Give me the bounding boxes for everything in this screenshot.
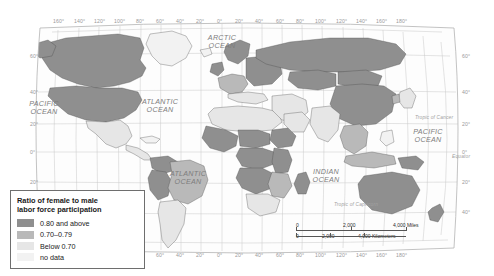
lon-label-bottom-10: 120°: [336, 252, 347, 258]
lon-label-top-4: 80°: [136, 18, 144, 24]
legend-swatch-mid: [17, 231, 34, 239]
lon-label-top-10: 40°: [255, 18, 263, 24]
lon-label-top-0: 160°: [53, 18, 64, 24]
scale-miles-tick-1: [351, 227, 352, 231]
ocean-label-atlantic-north: ATLANTICOCEAN: [136, 98, 184, 115]
lon-label-top-11: 60°: [276, 18, 284, 24]
lon-label-top-17: 180°: [396, 18, 407, 24]
scale-miles-tick-0: [296, 227, 297, 231]
lat-label-right-1: 40°: [462, 89, 470, 95]
lon-label-top-3: 100°: [114, 18, 125, 24]
label-equator: Equator: [452, 154, 470, 159]
lon-label-bottom-6: 40°: [255, 252, 263, 258]
scale-km-tick-0: [296, 233, 297, 237]
lon-label-bottom-3: 20°: [196, 252, 204, 258]
legend-item-mid[interactable]: 0.70–0.79: [17, 230, 138, 239]
lon-label-top-5: 60°: [156, 18, 164, 24]
lat-label-right-2: 20°: [462, 121, 470, 127]
legend-title-line-1: Ratio of female to male: [17, 196, 138, 205]
region-korea: [392, 94, 400, 104]
lat-label-left-3: 0°: [30, 149, 35, 155]
lat-label-left-0: 60°: [30, 53, 38, 59]
legend-title: Ratio of female to male labor force part…: [17, 196, 138, 215]
ocean-label-indian: INDIANOCEAN: [302, 168, 350, 185]
lon-label-top-12: 80°: [296, 18, 304, 24]
ocean-label-pacific-west: PACIFICOCEAN: [20, 100, 68, 117]
legend-label-mid: 0.70–0.79: [40, 230, 72, 239]
lon-label-top-8: 0°: [217, 18, 222, 24]
lon-label-top-1: 140°: [74, 18, 85, 24]
lat-label-left-2: 20°: [30, 121, 38, 127]
scale-bar: 0 2,000 4,000 Miles 0 2,000 4,000 Kilome…: [296, 222, 420, 244]
ocean-label-atlantic-south-line-2: OCEAN: [164, 178, 212, 186]
legend-swatch-high: [17, 219, 34, 227]
lon-label-top-7: 20°: [196, 18, 204, 24]
label-tropic-of-cancer: Tropic of Cancer: [415, 115, 453, 120]
scale-km-tick-1: [330, 233, 331, 237]
lat-label-right-0: 60°: [462, 53, 470, 59]
legend-swatch-nodata: [17, 253, 34, 261]
label-tropic-of-capricorn: Tropic of Capricorn: [334, 202, 378, 207]
lon-label-bottom-5: 20°: [235, 252, 243, 258]
lat-label-right-5: 40°: [462, 209, 470, 215]
legend-item-nodata[interactable]: no data: [17, 253, 138, 262]
ocean-label-arctic: ARCTICOCEAN: [198, 34, 246, 51]
lat-label-left-1: 40°: [30, 89, 38, 95]
lon-label-bottom-12: 160°: [376, 252, 387, 258]
lon-label-bottom-4: 0°: [217, 252, 222, 258]
legend-label-high: 0.80 and above: [40, 219, 90, 228]
legend-item-low[interactable]: Below 0.70: [17, 242, 138, 251]
lon-label-top-6: 40°: [176, 18, 184, 24]
world-map-figure: 160°140°120°100°80°60°40°20°0°20°40°60°8…: [0, 0, 494, 276]
lon-label-top-9: 20°: [235, 18, 243, 24]
ocean-label-atlantic-north-line-2: OCEAN: [136, 106, 184, 114]
lat-label-right-4: 20°: [462, 179, 470, 185]
scale-miles-tick-2: [406, 227, 407, 231]
ocean-label-pacific-east-line-2: OCEAN: [404, 136, 452, 144]
region-sahel: [238, 130, 270, 148]
ocean-label-indian-line-2: OCEAN: [302, 176, 350, 184]
lon-label-top-2: 120°: [94, 18, 105, 24]
lon-label-bottom-11: 140°: [356, 252, 367, 258]
legend-label-nodata: no data: [40, 253, 64, 262]
legend-item-high[interactable]: 0.80 and above: [17, 219, 138, 228]
lon-label-bottom-9: 100°: [315, 252, 326, 258]
map-legend: Ratio of female to male labor force part…: [10, 190, 145, 269]
ocean-label-atlantic-south: ATLANTICOCEAN: [164, 170, 212, 187]
lon-label-bottom-13: 180°: [396, 252, 407, 258]
legend-label-low: Below 0.70: [40, 242, 76, 251]
scale-km-line: [296, 236, 406, 237]
scale-bar-miles: 0 2,000 4,000 Miles: [296, 222, 420, 233]
ocean-label-pacific-east: PACIFICOCEAN: [404, 128, 452, 145]
lon-label-top-16: 160°: [376, 18, 387, 24]
lon-label-bottom-7: 60°: [276, 252, 284, 258]
lon-label-bottom-2: 40°: [176, 252, 184, 258]
lat-label-left-4: 20°: [30, 179, 38, 185]
ocean-label-pacific-west-line-2: OCEAN: [20, 108, 68, 116]
lon-label-top-15: 140°: [356, 18, 367, 24]
legend-swatch-low: [17, 242, 34, 250]
lon-label-bottom-1: 60°: [156, 252, 164, 258]
lon-label-bottom-8: 80°: [296, 252, 304, 258]
scale-bar-kilometers: 0 2,000 4,000 Kilometers: [296, 233, 420, 244]
legend-title-line-2: labor force participation: [17, 205, 138, 214]
lon-label-top-13: 100°: [315, 18, 326, 24]
ocean-label-arctic-line-2: OCEAN: [198, 42, 246, 50]
lon-label-top-14: 120°: [336, 18, 347, 24]
scale-km-tick-2: [364, 233, 365, 237]
scale-miles-mid: 2,000: [343, 222, 356, 228]
